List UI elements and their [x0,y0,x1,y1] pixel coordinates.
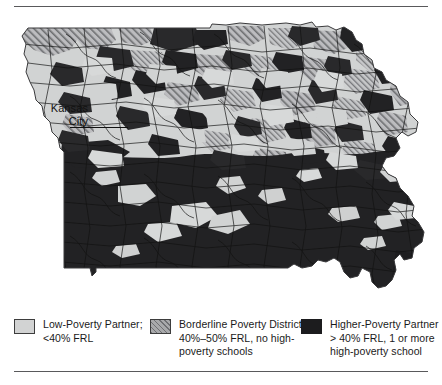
bottom-divider-rule [14,371,428,372]
legend-item-low-poverty-partner: Low-Poverty Partner; <40% FRL [14,318,154,345]
legend-high-line2: > 40% FRL, 1 or more [330,332,438,346]
kansas-city-leader-line [70,127,128,128]
legend-low-line1: Low-Poverty Partner; [43,318,143,332]
legend-high-line1: Higher-Poverty Partner [330,318,438,332]
legend-item-borderline-poverty-district: Borderline Poverty District; 40%–50% FRL… [150,318,300,359]
legend-swatch-higher-poverty-icon [301,319,322,334]
legend-mid-line2: 40%–50% FRL, no high- [179,332,305,346]
legend-mid-line3: poverty schools [179,345,305,359]
legend-high-line3: high-poverty school [330,345,438,359]
kansas-city-label-line1: Kansas [8,102,88,115]
legend-item-higher-poverty-partner: Higher-Poverty Partner > 40% FRL, 1 or m… [301,318,428,359]
legend-label-higher-poverty: Higher-Poverty Partner > 40% FRL, 1 or m… [330,318,438,359]
missouri-map-svg [0,10,442,302]
map-districts-layer [0,10,442,302]
kansas-city-annotation: Kansas City [8,102,88,128]
map-legend: Low-Poverty Partner; <40% FRL Borderline… [14,318,428,366]
legend-low-line2: <40% FRL [43,332,143,346]
top-divider-rule [14,6,428,7]
legend-label-low-poverty: Low-Poverty Partner; <40% FRL [43,318,143,345]
missouri-poverty-map: Kansas City [0,10,442,302]
legend-swatch-low-poverty-icon [14,319,35,334]
legend-label-borderline: Borderline Poverty District; 40%–50% FRL… [179,318,305,359]
legend-swatch-borderline-hatch-icon [150,319,171,334]
legend-mid-line1: Borderline Poverty District; [179,318,305,332]
